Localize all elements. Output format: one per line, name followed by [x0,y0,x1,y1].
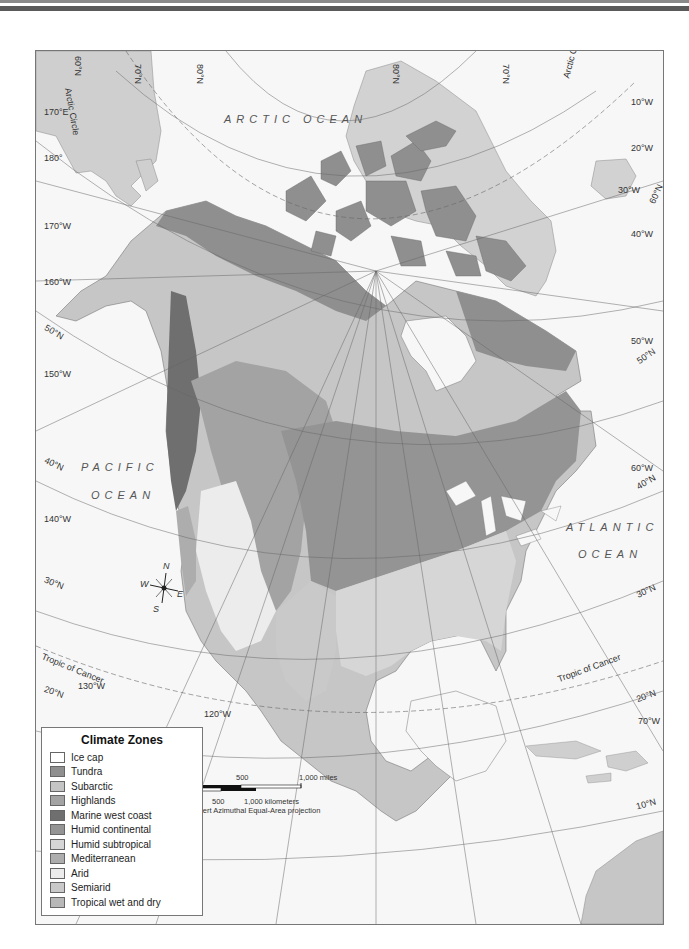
legend-label: Marine west coast [71,810,152,821]
climate-zones-legend: Climate Zones Ice cap Tundra Subarctic H… [41,727,203,916]
arctic-ocean-label: ARCTIC OCEAN [224,113,367,125]
legend-item-humid-continental: Humid continental [42,823,202,838]
scale-bar-graphic [184,783,324,797]
lat-label-60n-left: 60°N [73,56,83,76]
swatch-ice-cap [50,752,65,763]
swatch-arid [50,868,65,879]
lon-label-110w: 110°W [241,923,267,925]
compass-n-label: N [163,561,170,571]
lon-label-60w: 60°W [631,463,653,473]
lon-label-50w: 50°W [631,336,653,346]
swatch-humid-subtropical [50,839,65,850]
scale-miles-500: 500 [236,773,249,782]
legend-label: Semiarid [71,882,110,893]
lon-label-140w: 140°W [44,514,71,524]
legend-item-tundra: Tundra [42,765,202,780]
swatch-tundra [50,766,65,777]
legend-label: Highlands [71,795,115,806]
lon-label-10w: 10°W [631,97,653,107]
map-frame: ARCTIC OCEAN PACIFIC OCEAN ATLANTIC OCEA… [35,50,664,925]
lon-label-80w: 80°W [550,923,572,925]
lon-label-170w: 170°W [44,221,71,231]
lon-label-90w: 90°W [446,923,468,925]
legend-item-mediterranean: Mediterranean [42,852,202,867]
legend-item-tropical-wet-and-dry: Tropical wet and dry [42,895,202,910]
compass-w-label: W [140,579,149,589]
lon-label-160w: 160°W [44,277,71,287]
legend-title: Climate Zones [42,733,202,747]
swatch-humid-continental [50,824,65,835]
swatch-mediterranean [50,853,65,864]
scale-bar: 0 500 1,000 miles 0 500 1,000 kilometers… [184,773,374,823]
pacific-ocean-label-1: PACIFIC [81,461,159,473]
projection-label: Lambert Azimuthal Equal-Area projection [184,806,320,815]
scale-km-1000: 1,000 kilometers [244,797,299,806]
legend-item-humid-subtropical: Humid subtropical [42,837,202,852]
lon-label-20w: 20°W [631,143,653,153]
legend-label: Humid subtropical [71,839,151,850]
header-rule-thick [0,6,689,11]
legend-item-highlands: Highlands [42,794,202,809]
lon-label-150w: 150°W [44,369,71,379]
scale-km-500: 500 [212,797,225,806]
pacific-ocean-label-2: OCEAN [91,489,155,501]
lon-label-180: 180° [44,153,63,163]
compass-s-label: S [153,604,159,614]
legend-item-semiarid: Semiarid [42,881,202,896]
lon-label-120w: 120°W [204,709,231,719]
swatch-semiarid [50,882,65,893]
header-rule-thin [0,0,689,3]
legend-item-subarctic: Subarctic [42,779,202,794]
compass-e-label: E [177,589,183,599]
swatch-marine-west-coast [50,810,65,821]
swatch-subarctic [50,781,65,792]
legend-item-arid: Arid [42,866,202,881]
lat-label-80n-left: 80°N [195,64,205,84]
legend-label: Subarctic [71,781,113,792]
legend-label: Humid continental [71,824,151,835]
lon-label-70w: 70°W [638,716,660,726]
lon-label-130w: 130°W [78,681,105,691]
legend-label: Tropical wet and dry [71,897,161,908]
lon-label-40w: 40°W [631,229,653,239]
legend-item-ice-cap: Ice cap [42,750,202,765]
legend-label: Ice cap [71,752,103,763]
atlantic-ocean-label-1: ATLANTIC [566,521,658,533]
legend-label: Arid [71,868,89,879]
lat-label-80n-right: 80°N [391,64,401,84]
scale-miles-1000: 1,000 miles [299,773,337,782]
lon-label-100w: 100°W [344,923,371,925]
lon-label-30w: 30°W [618,185,640,195]
legend-label: Tundra [71,766,102,777]
atlantic-ocean-label-2: OCEAN [578,548,642,560]
lon-label-170e: 170°E [44,107,69,117]
swatch-highlands [50,795,65,806]
legend-item-marine-west-coast: Marine west coast [42,808,202,823]
swatch-tropical-wet-and-dry [50,897,65,908]
lat-label-70n-left: 70°N [133,64,143,84]
legend-label: Mediterranean [71,853,135,864]
lat-label-70n-right: 70°N [501,64,511,84]
